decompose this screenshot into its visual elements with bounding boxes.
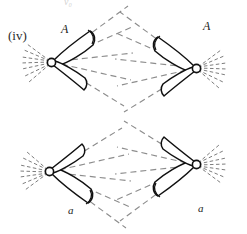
label-amplitude-bottom-left: a: [68, 204, 74, 216]
emission-unit-bottom-left: [19, 128, 131, 228]
vertex-hub: [47, 58, 55, 66]
lobe-upper: [153, 37, 195, 72]
ray: [21, 62, 50, 63]
vertex-hub: [192, 160, 200, 168]
ray-fan-left-bottom-left: [19, 152, 48, 190]
ray-fan-left-top-left: [21, 44, 50, 82]
ray: [20, 165, 48, 171]
ray: [198, 69, 226, 75]
vertex-hub: [192, 64, 200, 72]
ray: [20, 173, 48, 177]
label-amplitude-top-left: A: [61, 22, 68, 37]
figure-panel-iv: v₀: [0, 0, 247, 234]
emission-unit-bottom-right: [115, 121, 227, 221]
lobe-lower: [51, 168, 93, 203]
ray: [19, 171, 48, 172]
lobe-upper: [50, 144, 85, 173]
ray: [198, 166, 226, 170]
diagram-canvas: [0, 0, 247, 234]
ray: [198, 164, 227, 165]
panel-number-label: (iv): [8, 28, 27, 44]
ray: [198, 63, 226, 67]
lobe-lower: [153, 161, 195, 196]
lobe-lower: [161, 67, 196, 96]
label-amplitude-top-right: A: [203, 19, 210, 34]
ray: [22, 57, 50, 61]
lobe-upper: [161, 137, 196, 166]
emission-unit-top-left: [21, 6, 133, 106]
lobe-lower: [52, 61, 87, 90]
label-amplitude-bottom-right: a: [198, 202, 204, 214]
ray: [198, 68, 227, 69]
ray-fan-left-top-right: [198, 50, 227, 88]
lobe-upper: [53, 31, 95, 66]
ray: [198, 158, 226, 164]
ray: [22, 63, 50, 69]
vertex-hub: [45, 167, 53, 175]
ray-fan-left-bottom-right: [198, 145, 227, 183]
